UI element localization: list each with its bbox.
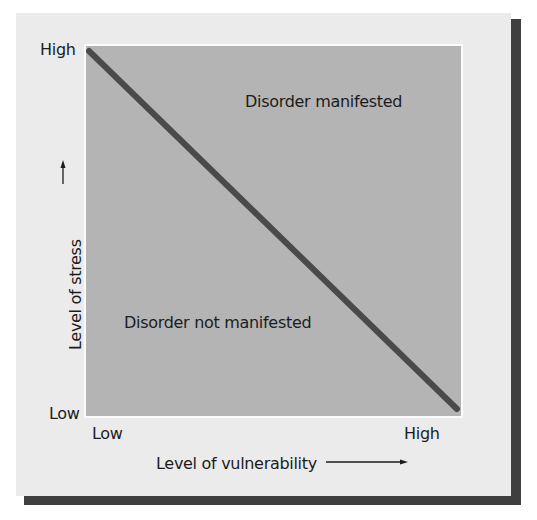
y-axis-title: Level of stress (66, 239, 85, 350)
y-tick-low: Low (49, 404, 80, 423)
region-label-disorder-not-manifested: Disorder not manifested (124, 313, 311, 332)
x-tick-high: High (404, 424, 440, 443)
x-tick-low: Low (92, 424, 123, 443)
y-tick-high: High (40, 40, 76, 59)
x-axis-title: Level of vulnerability (156, 454, 317, 473)
x-axis-arrow-icon (326, 460, 408, 465)
y-axis-title-wrap: Level of stress (56, 150, 76, 350)
region-label-disorder-manifested: Disorder manifested (245, 92, 402, 111)
